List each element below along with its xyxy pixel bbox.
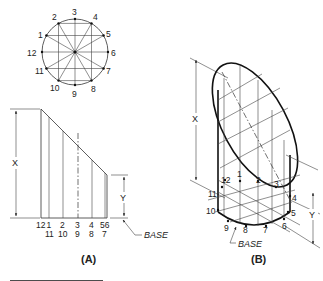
point-label-4: 4 bbox=[93, 12, 98, 22]
b-point-5: 5 bbox=[291, 208, 296, 218]
b-point-1: 1 bbox=[237, 169, 242, 179]
elev-label-10: 10 bbox=[58, 229, 68, 239]
point-label-2: 2 bbox=[52, 12, 57, 22]
b-point-4: 4 bbox=[292, 193, 297, 203]
b-point-11: 11 bbox=[208, 189, 217, 199]
oblique-cut-cylinder: X bbox=[190, 50, 320, 265]
dimension-x-label: X bbox=[12, 158, 18, 168]
base-leader-b bbox=[230, 227, 236, 243]
dimension-y-label: Y bbox=[120, 193, 126, 203]
elev-label-9: 9 bbox=[75, 229, 80, 239]
b-point-3: 3 bbox=[274, 179, 279, 189]
b-point-7: 7 bbox=[263, 225, 268, 235]
point-label-5: 5 bbox=[106, 29, 111, 39]
elevation-view: X Y 121 2 3 4 56 11 10 9 8 7 BASE (A) bbox=[10, 109, 169, 265]
b-point-10: 10 bbox=[206, 206, 216, 216]
point-label-3: 3 bbox=[72, 7, 77, 17]
base-label-b: BASE bbox=[238, 239, 263, 249]
b-point-12: 12 bbox=[221, 175, 231, 185]
point-label-9: 9 bbox=[72, 89, 77, 99]
point-label-11: 11 bbox=[35, 66, 44, 76]
b-point-8: 8 bbox=[243, 225, 248, 235]
b-point-9: 9 bbox=[224, 223, 229, 233]
elev-label-7: 7 bbox=[102, 229, 107, 239]
caption-b: (B) bbox=[251, 253, 267, 265]
dimension-x-label-b: X bbox=[192, 114, 198, 124]
elev-label-8: 8 bbox=[89, 229, 94, 239]
point-label-6: 6 bbox=[111, 48, 116, 58]
auxiliary-view-diagram: 1 2 3 4 5 6 7 8 9 10 11 12 X bbox=[0, 0, 323, 281]
dimension-y-label-b: Y bbox=[309, 210, 315, 220]
elev-label-11: 11 bbox=[45, 229, 54, 239]
point-label-10: 10 bbox=[50, 83, 60, 93]
point-label-8: 8 bbox=[91, 84, 96, 94]
point-label-12: 12 bbox=[27, 48, 37, 58]
b-point-2: 2 bbox=[256, 175, 261, 185]
base-label-a: BASE bbox=[144, 230, 169, 240]
base-leader bbox=[123, 220, 142, 235]
top-view-circle: 1 2 3 4 5 6 7 8 9 10 11 12 bbox=[27, 7, 116, 99]
caption-a: (A) bbox=[81, 253, 97, 265]
b-point-6: 6 bbox=[282, 221, 287, 231]
point-label-1: 1 bbox=[38, 30, 43, 40]
point-label-7: 7 bbox=[106, 66, 111, 76]
